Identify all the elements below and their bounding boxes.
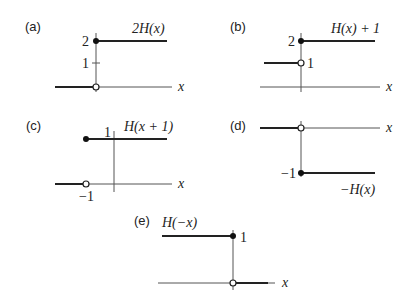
closed-point-icon <box>298 170 304 176</box>
function-label: H(x) + 1 <box>330 21 380 37</box>
x-tick-label: −1 <box>79 189 94 204</box>
panel-label: (c) <box>26 118 41 133</box>
open-point-icon <box>298 60 304 66</box>
panel-b: (b) 2 1 H(x) + 1 x <box>230 19 393 94</box>
panel-label: (d) <box>230 118 246 133</box>
y-tick-label: −1 <box>281 166 296 181</box>
function-label: H(−x) <box>161 215 197 231</box>
x-axis-label: x <box>177 176 185 191</box>
y-tick-label: 1 <box>104 125 111 140</box>
function-label: H(x + 1) <box>123 119 173 135</box>
open-point-icon <box>93 84 99 90</box>
open-point-icon <box>298 125 304 131</box>
y-tick-label: 2 <box>82 34 89 49</box>
panel-d: (d) −1 −H(x) x <box>230 118 393 198</box>
panel-e: (e) 1 H(−x) x <box>134 213 289 290</box>
panel-label: (b) <box>230 19 246 34</box>
function-label: −H(x) <box>340 182 375 198</box>
function-label: 2H(x) <box>132 21 165 37</box>
x-axis-label: x <box>385 79 393 94</box>
y-tick-label: 1 <box>240 230 247 245</box>
x-axis-label: x <box>177 79 185 94</box>
closed-point-icon <box>83 136 89 142</box>
panel-label: (a) <box>25 19 41 34</box>
closed-point-icon <box>298 38 304 44</box>
y-tick-label: 1 <box>307 56 314 71</box>
heaviside-diagrams: (a) 2 1 2H(x) x (b) 2 1 H(x) + 1 x (c) 1 <box>0 0 417 303</box>
open-point-icon <box>83 181 89 187</box>
x-axis-label: x <box>281 275 289 290</box>
y-tick-label: 2 <box>288 34 295 49</box>
panel-c: (c) 1 −1 H(x + 1) x <box>26 118 185 204</box>
x-axis-label: x <box>385 120 393 135</box>
panel-a: (a) 2 1 2H(x) x <box>25 19 185 94</box>
open-point-icon <box>230 280 236 286</box>
closed-point-icon <box>93 38 99 44</box>
y-tick-label: 1 <box>82 56 89 71</box>
closed-point-icon <box>230 233 236 239</box>
panel-label: (e) <box>134 213 150 228</box>
